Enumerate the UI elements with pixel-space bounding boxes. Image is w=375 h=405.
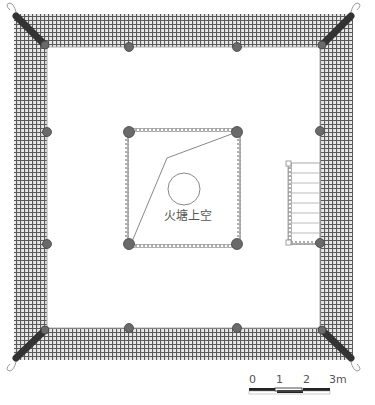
scale-tick-1: 1: [276, 373, 283, 386]
stair: [286, 161, 320, 245]
hearth-label: 火塘上空: [164, 206, 212, 223]
scale-bar: [249, 388, 330, 394]
roof-eave-band: [14, 14, 353, 360]
columns: [41, 41, 326, 334]
inner-frame: [127, 130, 239, 246]
scale-tick-2: 2: [303, 373, 310, 386]
hearth-circle: [168, 173, 200, 205]
floor-plan: [0, 0, 375, 405]
scale-tick-3m: 3m: [329, 373, 347, 386]
scale-tick-0: 0: [249, 373, 256, 386]
corner-rafters: [7, 3, 360, 371]
